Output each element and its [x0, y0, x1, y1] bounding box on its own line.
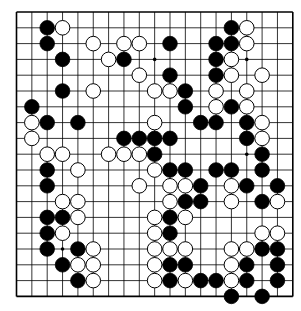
black-stone[interactable]: [239, 131, 254, 146]
black-stone[interactable]: [224, 21, 239, 36]
white-stone[interactable]: [71, 210, 86, 225]
white-stone[interactable]: [86, 242, 101, 257]
black-stone[interactable]: [178, 194, 193, 209]
black-stone[interactable]: [25, 100, 40, 115]
white-stone[interactable]: [147, 84, 162, 99]
black-stone[interactable]: [71, 115, 86, 130]
black-stone[interactable]: [40, 115, 55, 130]
black-stone[interactable]: [40, 36, 55, 51]
white-stone[interactable]: [209, 100, 224, 115]
black-stone[interactable]: [255, 163, 270, 178]
black-stone[interactable]: [255, 289, 270, 304]
white-stone[interactable]: [224, 194, 239, 209]
black-stone[interactable]: [270, 179, 285, 194]
black-stone[interactable]: [163, 131, 178, 146]
white-stone[interactable]: [224, 273, 239, 288]
white-stone[interactable]: [178, 210, 193, 225]
white-stone[interactable]: [163, 84, 178, 99]
black-stone[interactable]: [40, 179, 55, 194]
white-stone[interactable]: [86, 36, 101, 51]
white-stone[interactable]: [163, 194, 178, 209]
white-stone[interactable]: [147, 115, 162, 130]
white-stone[interactable]: [147, 210, 162, 225]
white-stone[interactable]: [224, 179, 239, 194]
black-stone[interactable]: [255, 242, 270, 257]
white-stone[interactable]: [270, 194, 285, 209]
white-stone[interactable]: [239, 100, 254, 115]
black-stone[interactable]: [117, 131, 132, 146]
white-stone[interactable]: [86, 273, 101, 288]
black-stone[interactable]: [163, 163, 178, 178]
white-stone[interactable]: [86, 258, 101, 273]
white-stone[interactable]: [132, 68, 147, 83]
white-stone[interactable]: [147, 163, 162, 178]
white-stone[interactable]: [255, 68, 270, 83]
white-stone[interactable]: [239, 242, 254, 257]
black-stone[interactable]: [178, 163, 193, 178]
black-stone[interactable]: [40, 242, 55, 257]
black-stone[interactable]: [55, 84, 70, 99]
white-stone[interactable]: [132, 179, 147, 194]
white-stone[interactable]: [55, 147, 70, 162]
white-stone[interactable]: [117, 36, 132, 51]
black-stone[interactable]: [163, 258, 178, 273]
white-stone[interactable]: [178, 179, 193, 194]
white-stone[interactable]: [270, 226, 285, 241]
white-stone[interactable]: [255, 131, 270, 146]
white-stone[interactable]: [147, 242, 162, 257]
black-stone[interactable]: [163, 226, 178, 241]
white-stone[interactable]: [147, 226, 162, 241]
black-stone[interactable]: [178, 258, 193, 273]
black-stone[interactable]: [224, 289, 239, 304]
white-stone[interactable]: [86, 84, 101, 99]
black-stone[interactable]: [40, 163, 55, 178]
white-stone[interactable]: [101, 52, 116, 67]
black-stone[interactable]: [147, 147, 162, 162]
white-stone[interactable]: [147, 258, 162, 273]
black-stone[interactable]: [193, 194, 208, 209]
white-stone[interactable]: [224, 258, 239, 273]
black-stone[interactable]: [163, 273, 178, 288]
black-stone[interactable]: [270, 273, 285, 288]
white-stone[interactable]: [132, 36, 147, 51]
black-stone[interactable]: [255, 147, 270, 162]
white-stone[interactable]: [255, 115, 270, 130]
black-stone[interactable]: [270, 258, 285, 273]
white-stone[interactable]: [178, 242, 193, 257]
black-stone[interactable]: [55, 210, 70, 225]
white-stone[interactable]: [209, 84, 224, 99]
black-stone[interactable]: [209, 68, 224, 83]
black-stone[interactable]: [193, 115, 208, 130]
white-stone[interactable]: [255, 226, 270, 241]
white-stone[interactable]: [239, 21, 254, 36]
white-stone[interactable]: [239, 84, 254, 99]
black-stone[interactable]: [270, 242, 285, 257]
white-stone[interactable]: [55, 194, 70, 209]
white-stone[interactable]: [224, 52, 239, 67]
white-stone[interactable]: [71, 258, 86, 273]
black-stone[interactable]: [209, 52, 224, 67]
black-stone[interactable]: [224, 100, 239, 115]
go-board[interactable]: [0, 0, 301, 311]
black-stone[interactable]: [55, 52, 70, 67]
white-stone[interactable]: [25, 115, 40, 130]
black-stone[interactable]: [40, 21, 55, 36]
black-stone[interactable]: [239, 115, 254, 130]
white-stone[interactable]: [25, 131, 40, 146]
white-stone[interactable]: [55, 21, 70, 36]
black-stone[interactable]: [193, 273, 208, 288]
black-stone[interactable]: [178, 100, 193, 115]
white-stone[interactable]: [163, 242, 178, 257]
black-stone[interactable]: [209, 115, 224, 130]
black-stone[interactable]: [255, 194, 270, 209]
black-stone[interactable]: [55, 258, 70, 273]
black-stone[interactable]: [193, 179, 208, 194]
white-stone[interactable]: [163, 179, 178, 194]
white-stone[interactable]: [178, 273, 193, 288]
black-stone[interactable]: [209, 163, 224, 178]
black-stone[interactable]: [239, 258, 254, 273]
white-stone[interactable]: [132, 147, 147, 162]
white-stone[interactable]: [40, 147, 55, 162]
black-stone[interactable]: [163, 210, 178, 225]
black-stone[interactable]: [224, 163, 239, 178]
